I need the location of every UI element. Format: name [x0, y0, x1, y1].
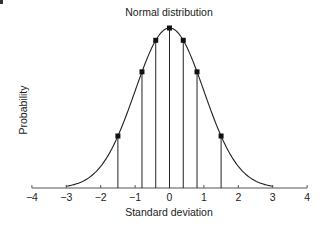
data-point-marker	[195, 69, 200, 74]
normal-distribution-plot: −4−3−2−101234	[0, 0, 327, 227]
x-tick-label: 2	[235, 191, 241, 203]
x-tick-label: −4	[26, 191, 38, 203]
data-point-marker	[219, 134, 224, 139]
x-tick-label: 0	[167, 191, 173, 203]
data-point-marker	[115, 134, 120, 139]
x-tick-label: −1	[129, 191, 141, 203]
x-tick-label: −2	[95, 191, 107, 203]
x-tick-label: −3	[60, 191, 72, 203]
data-point-marker	[167, 26, 172, 31]
x-tick-label: 3	[270, 191, 276, 203]
x-tick-label: 1	[201, 191, 207, 203]
data-point-marker	[181, 38, 186, 43]
data-point-marker	[139, 69, 144, 74]
data-point-marker	[153, 38, 158, 43]
x-tick-label: 4	[304, 191, 310, 203]
